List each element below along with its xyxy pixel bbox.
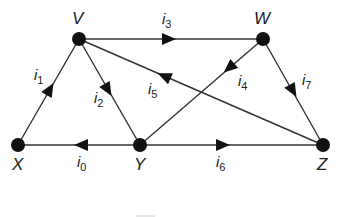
arrowheads: [41, 33, 301, 151]
edge-label-i3: i3: [162, 10, 171, 30]
nodes: [11, 32, 330, 152]
arrow-right-icon: [162, 33, 176, 45]
node-z: [316, 138, 330, 152]
edge-label-i0: i0: [77, 153, 86, 173]
node-label-w: W: [254, 9, 272, 28]
node-w: [256, 32, 270, 46]
arrow-left-icon: [74, 139, 88, 151]
edge-label-i5: i5: [148, 80, 157, 100]
node-labels: V W X Y Z: [11, 9, 328, 174]
circuit-graph-diagram: V W X Y Z i0 i1 i2 i3 i4 i5 i6 i7: [0, 0, 341, 217]
edge-label-i4: i4: [238, 72, 247, 92]
edge-label-i7: i7: [302, 71, 311, 91]
node-label-x: X: [11, 155, 24, 174]
node-label-z: Z: [316, 155, 328, 174]
node-x: [11, 138, 25, 152]
node-v: [72, 32, 86, 46]
node-label-y: Y: [134, 155, 147, 174]
node-y: [133, 138, 147, 152]
arrow-right-icon: [216, 139, 230, 151]
arrow-up-right-icon: [41, 80, 58, 98]
edge-label-i6: i6: [216, 153, 225, 173]
arrow-down-icon: [284, 82, 301, 100]
arrow-up-left-icon: [155, 68, 173, 85]
edge-label-i2: i2: [94, 89, 103, 109]
edges: [18, 39, 323, 145]
edge-i5-line: [79, 39, 323, 145]
edge-label-i1: i1: [34, 66, 43, 86]
node-label-v: V: [72, 9, 85, 28]
